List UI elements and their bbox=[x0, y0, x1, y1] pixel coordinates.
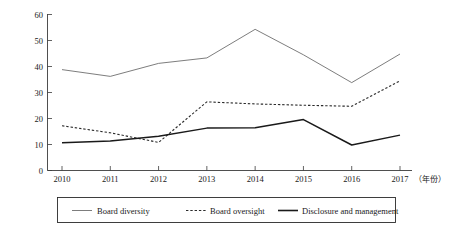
legend-label-0: Board diversity bbox=[97, 206, 150, 216]
x-tick-label-2014: 2014 bbox=[247, 174, 265, 184]
y-tick-marks bbox=[48, 15, 53, 171]
x-tick-label-2013: 2013 bbox=[198, 174, 215, 184]
y-tick-label-0: 0 bbox=[39, 166, 43, 176]
x-tick-label-2011: 2011 bbox=[102, 174, 119, 184]
chart-legend: Board diversityBoard oversightDisclosure… bbox=[58, 198, 399, 223]
x-tick-labels: 20102011201220132014201520162017 bbox=[54, 174, 409, 184]
x-tick-label-2016: 2016 bbox=[343, 174, 360, 184]
series-disclosure-and-management bbox=[62, 120, 400, 145]
line-chart: 0102030405060 20102011201220132014201520… bbox=[0, 0, 454, 233]
x-tick-label-2012: 2012 bbox=[150, 174, 167, 184]
legend-entries: Board diversityBoard oversightDisclosure… bbox=[72, 206, 399, 216]
series-board-oversight bbox=[62, 81, 400, 143]
x-axis-unit-label: （年份） bbox=[414, 174, 446, 184]
y-tick-label-20: 20 bbox=[35, 114, 44, 124]
x-tick-marks bbox=[62, 166, 400, 171]
x-tick-label-2010: 2010 bbox=[54, 174, 71, 184]
y-tick-label-60: 60 bbox=[35, 10, 44, 20]
y-tick-label-50: 50 bbox=[35, 36, 44, 46]
x-tick-label-2015: 2015 bbox=[295, 174, 312, 184]
x-tick-label-2017: 2017 bbox=[392, 174, 409, 184]
y-tick-label-30: 30 bbox=[35, 88, 44, 98]
y-tick-labels: 0102030405060 bbox=[35, 10, 44, 176]
legend-label-2: Disclosure and management bbox=[302, 206, 399, 216]
y-tick-label-40: 40 bbox=[35, 62, 44, 72]
chart-figure: 0102030405060 20102011201220132014201520… bbox=[0, 0, 454, 233]
y-tick-label-10: 10 bbox=[35, 140, 44, 150]
legend-label-1: Board oversight bbox=[210, 206, 265, 216]
series-board-diversity bbox=[62, 29, 400, 82]
